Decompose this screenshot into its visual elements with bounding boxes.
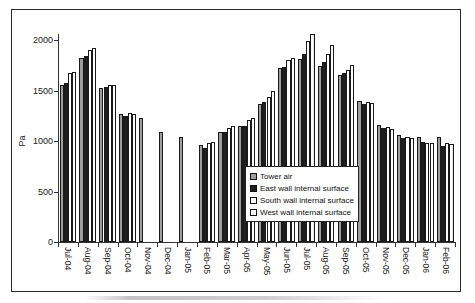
x-tick-mark [58,243,59,247]
x-tick-mark [376,243,377,247]
x-tick-mark [157,243,158,247]
x-tick-mark [356,243,357,247]
x-tick-mark [197,243,198,247]
bar-nov-04-series-0 [139,118,143,242]
x-axis-label: Jan-05 [183,247,192,273]
x-tick-mark [435,243,436,247]
x-axis-label: May-05 [262,247,271,275]
legend-item-west-wall: West wall internal surface [250,206,354,218]
x-tick-mark [78,243,79,247]
legend-marker-tower-air [250,173,257,180]
x-tick-mark [336,243,337,247]
x-tick-mark [296,243,297,247]
x-axis-label: Jun-05 [282,247,291,273]
legend-marker-west-wall [250,209,257,216]
y-tick-mark [54,91,58,92]
bar-feb-05-series-3 [211,142,215,242]
x-axis-label: Dec-05 [401,247,410,274]
y-tick-label: 0 [19,237,53,247]
bar-feb-06-series-3 [449,144,453,242]
x-axis-label: Dec-04 [163,247,172,274]
y-tick-label: 1500 [19,86,53,96]
x-tick-mark [316,243,317,247]
legend-label: Tower air [260,172,292,181]
y-tick-mark [54,141,58,142]
bar-mar-05-series-3 [231,126,235,242]
y-tick-mark [54,40,58,41]
legend-label: South wall internal surface [260,196,354,205]
bar-dec-05-series-3 [410,138,414,242]
legend-item-south-wall: South wall internal surface [250,194,354,206]
x-tick-mark [415,243,416,247]
x-tick-mark [118,243,119,247]
x-axis-label: Apr-05 [242,247,251,273]
x-axis-label: Jan-06 [421,247,430,273]
x-tick-mark [217,243,218,247]
x-tick-mark [257,243,258,247]
bar-nov-05-series-3 [390,129,394,242]
scan-artifact-smudge [84,296,390,300]
bar-jul-04-series-3 [72,72,76,242]
y-tick-label: 2000 [19,35,53,45]
bar-jan-05-series-0 [179,137,183,242]
x-tick-mark [137,243,138,247]
x-axis-label: Nov-05 [381,247,390,274]
y-tick-label: 1000 [19,136,53,146]
x-axis-label: Feb-05 [202,247,211,274]
legend-label: West wall internal surface [260,208,351,217]
x-axis-label: Oct-04 [123,247,132,273]
x-axis-label: Oct-05 [361,247,370,273]
x-axis-label: Sep-05 [341,247,350,274]
x-tick-mark [455,243,456,247]
x-axis-label: Mar-05 [222,247,231,274]
x-tick-mark [395,243,396,247]
legend-item-tower-air: Tower air [250,170,354,182]
x-tick-mark [98,243,99,247]
legend-marker-south-wall [250,197,257,204]
x-tick-mark [177,243,178,247]
x-axis-label: Aug-05 [321,247,330,274]
x-axis-label: Jul-05 [302,247,311,270]
legend-marker-east-wall [250,185,257,192]
bar-sep-04-series-3 [112,85,116,242]
x-axis-label: Nov-04 [143,247,152,274]
y-tick-label: 500 [19,187,53,197]
x-axis-label: Sep-04 [103,247,112,274]
bar-jan-06-series-3 [430,143,434,242]
bar-oct-05-series-3 [370,103,374,242]
legend-label: East wall internal surface [260,184,349,193]
x-axis-label: Aug-04 [83,247,92,274]
x-tick-mark [237,243,238,247]
legend-item-east-wall: East wall internal surface [250,182,354,194]
bar-aug-04-series-3 [92,48,96,242]
bar-oct-04-series-3 [132,114,136,242]
x-axis-label: Jul-04 [63,247,72,270]
bar-dec-04-series-0 [159,132,163,242]
chart-legend: Tower air East wall internal surface Sou… [245,166,359,222]
scanned-bar-chart-figure: Pa 0500100015002000 Jul-04Aug-04Sep-04Oc… [0,0,475,303]
x-tick-mark [276,243,277,247]
x-axis-label: Feb-06 [441,247,450,274]
y-tick-mark [54,192,58,193]
